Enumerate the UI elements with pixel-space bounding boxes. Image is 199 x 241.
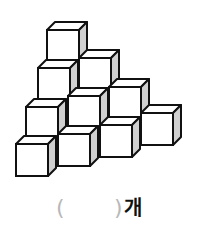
cube [141, 105, 181, 145]
unit-label: 개 [124, 193, 142, 223]
cube [58, 126, 98, 166]
stacked-cubes-figure [0, 0, 199, 180]
open-paren: ( [56, 193, 65, 223]
cube [16, 136, 56, 176]
cube [100, 117, 140, 157]
answer-blank: ( ) 개 [0, 193, 199, 223]
close-paren: ) [114, 193, 123, 223]
